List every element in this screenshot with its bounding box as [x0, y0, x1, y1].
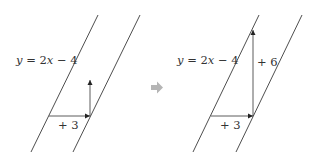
run-label: + 3 [58, 118, 79, 132]
left-panel: y = 2x − 4 + 3 [15, 15, 140, 152]
right-panel: y = 2x − 4 + 3 + 6 [176, 15, 302, 152]
equation-label: y = 2x − 4 [15, 53, 78, 67]
parallel-line [73, 15, 140, 152]
run-label: + 3 [220, 118, 241, 132]
transition-arrow-icon [151, 82, 163, 94]
slope-diagram: y = 2x − 4 + 3 y = 2x − 4 + 3 + 6 [0, 0, 317, 159]
equation-label: y = 2x − 4 [176, 53, 239, 67]
parallel-line [236, 15, 302, 152]
rise-label: + 6 [257, 55, 278, 69]
